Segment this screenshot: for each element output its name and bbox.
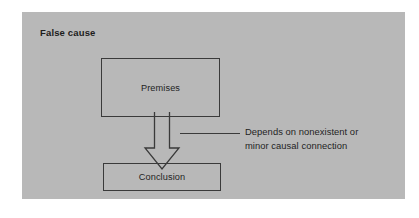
page-title: False cause bbox=[40, 27, 96, 38]
flow-node-premises-label: Premises bbox=[141, 83, 180, 93]
annotation-text: Depends on nonexistent or minor causal c… bbox=[245, 125, 410, 153]
annotation-text-line-1: Depends on nonexistent or bbox=[245, 125, 410, 139]
down-arrow-icon bbox=[142, 112, 182, 166]
flow-node-premises: Premises bbox=[101, 58, 220, 117]
false-cause-diagram-panel: False cause Premises Depends on nonexist… bbox=[22, 12, 405, 199]
annotation-leader-line bbox=[180, 133, 240, 134]
flow-node-conclusion: Conclusion bbox=[103, 163, 221, 191]
flow-node-conclusion-label: Conclusion bbox=[139, 172, 185, 182]
annotation-text-line-2: minor causal connection bbox=[245, 139, 410, 153]
